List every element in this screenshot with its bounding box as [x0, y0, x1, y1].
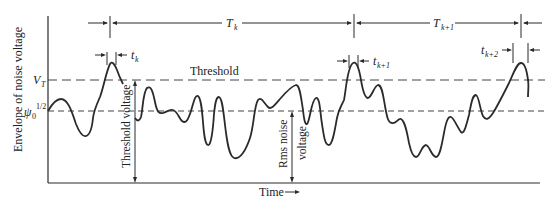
y-axis-label: Envelope of noise voltage — [11, 27, 25, 152]
noise-envelope-diagram: T k T k+1 t k t k+1 t k+2 — [0, 0, 558, 207]
svg-text:k+1: k+1 — [441, 23, 454, 32]
svg-text:T: T — [41, 80, 46, 89]
arrowhead-left — [112, 21, 117, 25]
duration-tk-marker: t k — [95, 48, 139, 65]
svg-text:1/2: 1/2 — [36, 102, 46, 111]
threshold-label: Threshold — [190, 64, 239, 78]
svg-text:T: T — [433, 16, 441, 30]
rms-noise-label-line1: Rms noise — [277, 120, 289, 168]
interval-Tk1-label: T k+1 — [433, 16, 454, 32]
threshold-voltage-arrow — [133, 80, 137, 183]
duration-tk1-marker: t k+1 — [337, 54, 390, 70]
time-arrow-icon — [285, 190, 300, 194]
svg-text:T: T — [226, 16, 234, 30]
arrowhead-right — [347, 21, 352, 25]
svg-text:ψ: ψ — [24, 105, 32, 119]
arrowhead-right — [514, 21, 519, 25]
duration-tk2-marker: t k+2 — [481, 43, 540, 63]
svg-text:0: 0 — [32, 112, 36, 121]
noise-waveform-segment-1 — [48, 63, 123, 137]
psi-label: ψ 0 1/2 — [24, 102, 46, 121]
svg-text:k+1: k+1 — [377, 61, 390, 70]
x-axis-label: Time — [259, 185, 284, 199]
vt-label: V T — [33, 73, 46, 89]
rms-noise-arrow — [290, 111, 294, 183]
svg-text:k: k — [234, 23, 238, 32]
arrowhead-right — [103, 21, 108, 25]
rms-noise-label-line2: voltage — [296, 126, 309, 160]
svg-text:k: k — [135, 55, 139, 64]
svg-text:k+2: k+2 — [485, 50, 498, 59]
threshold-voltage-label: Threshold voltage — [120, 85, 133, 168]
interval-Tk-label: T k — [226, 16, 238, 32]
